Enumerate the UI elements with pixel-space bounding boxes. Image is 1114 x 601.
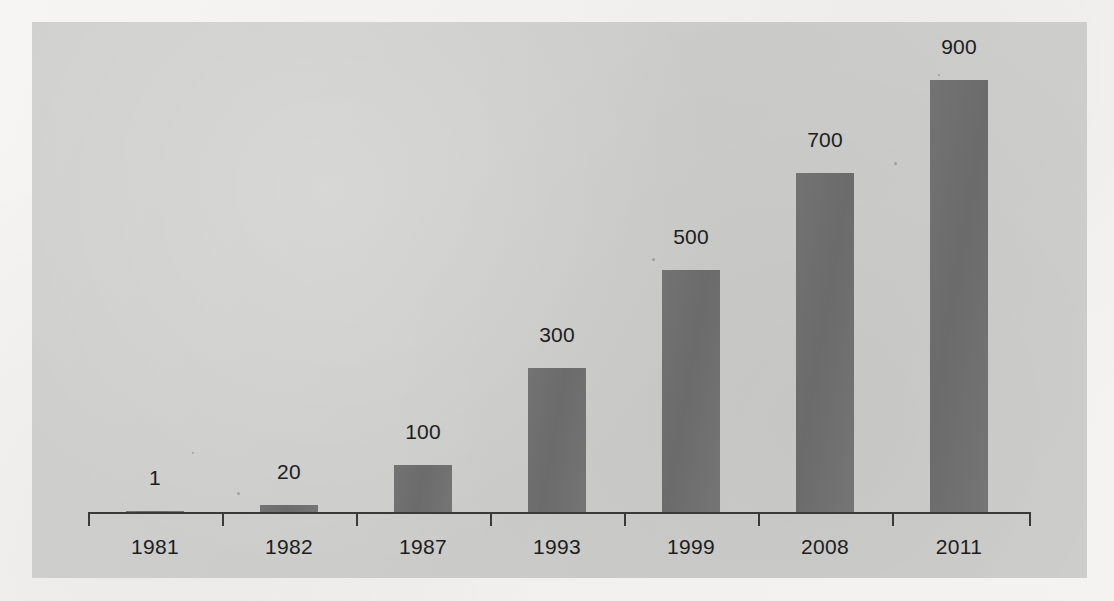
bar[interactable] (930, 80, 988, 513)
bar-value-label: 700 (758, 129, 892, 150)
bar-group: 500 (624, 73, 758, 513)
axis-tick (222, 513, 224, 526)
bar-value-label: 500 (624, 226, 758, 247)
axis-tick (892, 513, 894, 526)
x-axis-label-2008: 2008 (758, 536, 892, 558)
bar-group: 20 (222, 73, 356, 513)
bar[interactable] (796, 173, 854, 513)
bar-value-label: 20 (222, 461, 356, 482)
x-axis-label-1981: 1981 (88, 536, 222, 558)
chart-panel: 1 20 100 300 500 700 900 (32, 22, 1087, 578)
bar[interactable] (528, 368, 586, 513)
bar-value-label: 100 (356, 421, 490, 442)
x-axis-label-2011: 2011 (892, 536, 1026, 558)
x-axis-label-1982: 1982 (222, 536, 356, 558)
axis-tick-start (88, 513, 90, 526)
x-axis-line (88, 512, 1031, 514)
bar-group: 1 (88, 73, 222, 513)
axis-tick (624, 513, 626, 526)
axis-tick (356, 513, 358, 526)
bar-value-label: 900 (892, 36, 1026, 57)
axis-tick (758, 513, 760, 526)
bar-group: 700 (758, 73, 892, 513)
bar-group: 900 (892, 73, 1026, 513)
x-axis-label-1987: 1987 (356, 536, 490, 558)
bar-value-label: 300 (490, 324, 624, 345)
x-axis-label-1993: 1993 (490, 536, 624, 558)
plot-area: 1 20 100 300 500 700 900 (32, 22, 1087, 578)
bar-group: 300 (490, 73, 624, 513)
axis-tick (490, 513, 492, 526)
axis-tick-end (1029, 513, 1031, 526)
bar[interactable] (394, 465, 452, 513)
bar[interactable] (662, 270, 720, 513)
bar-value-label: 1 (88, 467, 222, 488)
x-axis-label-1999: 1999 (624, 536, 758, 558)
bar-group: 100 (356, 73, 490, 513)
